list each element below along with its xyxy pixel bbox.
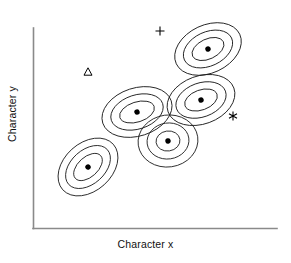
cluster-centroid-dot [165, 138, 171, 144]
plot-canvas [0, 0, 291, 263]
axes-group [33, 28, 277, 229]
x-axis-label: Character x [0, 238, 291, 250]
asterisk-icon [229, 111, 237, 120]
cluster-1 [47, 126, 130, 207]
asterisk-marker [229, 111, 237, 120]
y-axis-label: Character y [6, 86, 18, 142]
plus-marker [156, 27, 165, 36]
cluster-centroid-dot [204, 45, 211, 52]
cluster-4 [160, 65, 242, 134]
cluster-centroid-dot [198, 97, 205, 104]
y-axis-label-wrap: Character y [0, 0, 24, 228]
cluster-5 [166, 12, 250, 85]
cluster-centroid-dot [134, 109, 141, 116]
cluster-centroid-dot [84, 163, 92, 171]
scatter-plot-figure: Character y Character x [0, 0, 291, 263]
triangle-marker [84, 68, 92, 75]
plus-icon [156, 27, 165, 36]
cluster-2 [95, 78, 178, 146]
triangle-icon [84, 68, 92, 75]
